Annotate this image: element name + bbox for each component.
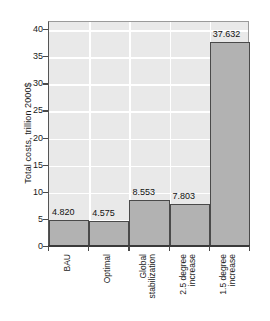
x-axis-line [48,245,250,247]
x-category-label-line: stabilization [147,254,156,318]
y-tick-label: 0 [23,241,43,251]
x-category-label: 1.5 degreeincrease [219,254,239,318]
y-tick-label: 35 [23,51,43,61]
plot-area [48,21,249,246]
bars-layer [49,22,248,246]
x-category-label: Optimal [103,254,113,318]
y-tick-label: 15 [23,160,43,170]
x-tick-mark [48,246,49,251]
y-tick-label: 20 [23,133,43,143]
y-tick-label: 30 [23,78,43,88]
y-tick-label: 40 [23,24,43,34]
bar-value-label: 7.803 [173,191,196,201]
y-tick-label: 5 [23,214,43,224]
x-category-label-line: increase [227,254,236,318]
x-category-label-line: Optimal [103,254,112,318]
bar-value-label: 8.553 [132,187,155,197]
bar [89,221,129,246]
bar [170,204,210,246]
x-category-label-line: 2.5 degree [179,254,188,318]
x-category-label-line: increase [187,254,196,318]
bar-value-label: 4.575 [92,208,115,218]
x-category-label: BAU [63,254,73,318]
bar-value-label: 4.820 [52,207,75,217]
y-axis-ticks: 0510152025303540 [0,0,43,321]
x-tick-mark [209,246,210,251]
bar [129,200,169,246]
x-category-label-line: BAU [63,254,72,318]
x-category-label: Globalstabilization [139,254,159,318]
bar [210,42,250,246]
x-category-label-line: Global [139,254,148,318]
x-tick-mark [88,246,89,251]
bar-chart: Total costs, trillion 2000$ 051015202530… [0,0,270,321]
x-tick-mark [128,246,129,251]
bar [49,220,89,246]
y-tick-label: 10 [23,187,43,197]
x-tick-mark [249,246,250,251]
x-category-label: 2.5 degreeincrease [179,254,199,318]
bar-value-label: 37.632 [213,29,241,39]
x-tick-mark [169,246,170,251]
y-tick-label: 25 [23,105,43,115]
